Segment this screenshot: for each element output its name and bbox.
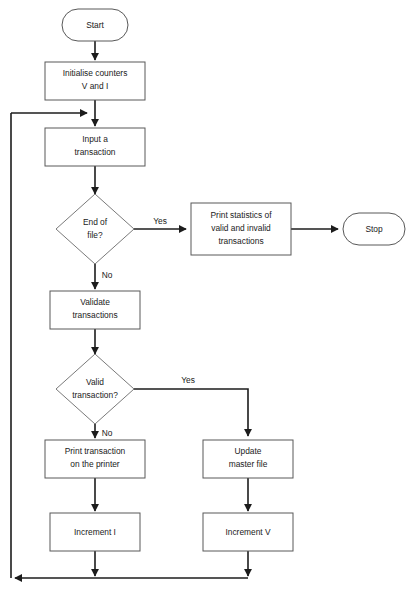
node-update-master-file-line1: Update (234, 446, 261, 456)
flowchart-canvas: Print statistics --> Validate transactio… (0, 0, 413, 604)
edge-label-valid-no: No (102, 428, 113, 438)
node-valid-transaction-decision[interactable]: Valid transaction? (56, 354, 134, 424)
node-print-statistics-line1: Print statistics of (211, 210, 273, 220)
node-print-statistics-line2: valid and invalid (211, 223, 271, 233)
edge-valid-yes-to-update-master (134, 389, 248, 436)
edge-label-valid-yes: Yes (181, 375, 195, 385)
node-print-statistics-line3: transactions (218, 236, 263, 246)
node-input-transaction[interactable]: Input a transaction (45, 128, 145, 166)
node-initialise-counters-line1: Initialise counters (63, 68, 128, 78)
node-increment-i[interactable]: Increment I (50, 513, 140, 551)
node-increment-i-label: Increment I (74, 527, 116, 537)
edge-label-eof-yes: Yes (153, 216, 167, 226)
node-print-transaction-line1: Print transaction (65, 446, 126, 456)
node-input-transaction-line1: Input a (82, 134, 108, 144)
node-valid-transaction-line2: transaction? (72, 390, 118, 400)
flowchart-svg: Print statistics --> Validate transactio… (0, 0, 413, 604)
node-start-label: Start (86, 20, 104, 30)
node-end-of-file-decision[interactable]: End of file? (56, 194, 134, 264)
node-validate-transactions[interactable]: Validate transactions (50, 291, 140, 329)
node-stop-label: Stop (365, 224, 383, 234)
node-end-of-file-line2: file? (87, 230, 103, 240)
node-update-master-file[interactable]: Update master file (203, 440, 293, 478)
edge-label-eof-no: No (102, 270, 113, 280)
node-print-statistics[interactable]: Print statistics of valid and invalid tr… (191, 203, 291, 255)
node-initialise-counters-line2: V and I (82, 81, 109, 91)
node-validate-transactions-line2: transactions (72, 310, 117, 320)
node-print-transaction-line2: on the printer (70, 459, 120, 469)
node-print-transaction[interactable]: Print transaction on the printer (45, 440, 145, 478)
node-stop[interactable]: Stop (343, 213, 405, 245)
node-increment-v-label: Increment V (225, 527, 271, 537)
node-input-transaction-line2: transaction (75, 147, 116, 157)
node-valid-transaction-line1: Valid (86, 377, 104, 387)
node-end-of-file-line1: End of (83, 217, 108, 227)
node-validate-transactions-line1: Validate (80, 297, 110, 307)
node-update-master-file-line2: master file (229, 459, 268, 469)
node-increment-v[interactable]: Increment V (203, 513, 293, 551)
node-start[interactable]: Start (62, 9, 128, 41)
node-initialise-counters[interactable]: Initialise counters V and I (45, 62, 145, 100)
